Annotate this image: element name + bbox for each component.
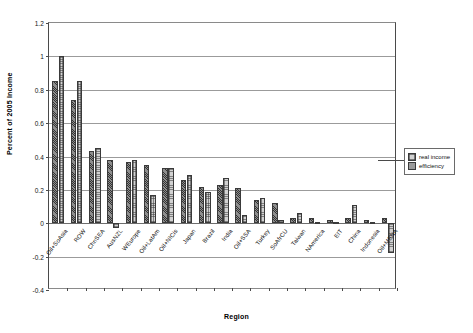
legend-item-efficiency: efficiency	[408, 162, 450, 170]
x-axis-tick-mark	[196, 288, 197, 291]
x-axis-category-label: ROW	[73, 228, 87, 243]
bar-real-income	[52, 81, 57, 223]
x-axis-category-label: NAmerica	[304, 228, 325, 253]
x-axis-tick-mark	[250, 288, 251, 291]
legend-leader-line	[378, 160, 404, 161]
x-axis-category-labels: Oil+SoAsiaROWChnSEAAusNZLWEuropeOil+LatA…	[48, 228, 396, 288]
x-axis-tick-mark	[342, 288, 343, 291]
x-axis-category-label: India	[221, 228, 234, 242]
x-axis-tick-mark	[141, 288, 142, 291]
x-axis-category-label: SoAfrCU	[269, 228, 289, 251]
bar-real-income	[162, 168, 167, 223]
legend-item-real-income: real income	[408, 153, 450, 161]
legend-label-real-income: real income	[419, 154, 450, 160]
x-axis-tick-mark	[287, 288, 288, 291]
x-axis-title: Region	[0, 313, 473, 320]
bar-efficiency	[315, 222, 320, 224]
x-axis-category-label: Oil+SoAsia	[45, 228, 69, 256]
bar-real-income	[107, 160, 112, 223]
bar-efficiency	[95, 148, 100, 223]
y-axis-tick-label: -0.4	[32, 287, 44, 294]
bar-efficiency	[260, 198, 265, 223]
bar-efficiency	[223, 178, 228, 223]
bar-efficiency	[333, 222, 338, 224]
x-axis-tick-mark	[397, 288, 398, 291]
x-axis-tick-mark	[269, 288, 270, 291]
bar-real-income	[217, 185, 222, 223]
x-axis-category-label: Brazil	[201, 228, 215, 244]
bar-efficiency	[242, 215, 247, 223]
bar-efficiency	[352, 205, 357, 223]
y-axis-tick-label: 0.2	[35, 186, 44, 193]
y-axis-tick-label: 1	[40, 53, 44, 60]
x-axis-tick-mark	[122, 288, 123, 291]
x-axis-tick-mark	[104, 288, 105, 291]
x-axis-tick-mark	[324, 288, 325, 291]
legend-label-efficiency: efficiency	[419, 163, 444, 169]
bar-efficiency	[77, 81, 82, 223]
x-axis-category-label: Oil+SSA	[233, 228, 252, 250]
y-axis-title: Percent of 2005 Income	[6, 72, 13, 155]
x-axis-tick-mark	[360, 288, 361, 291]
bar-real-income	[290, 218, 295, 223]
bar-real-income	[144, 165, 149, 223]
y-axis-tick-label: 0	[40, 220, 44, 227]
bar-real-income	[71, 100, 76, 223]
bar-efficiency	[150, 195, 155, 223]
x-axis-tick-mark	[379, 288, 380, 291]
bar-real-income	[199, 187, 204, 224]
x-axis-category-label: Japan	[182, 228, 197, 245]
bar-real-income	[272, 203, 277, 223]
bar-chart: Percent of 2005 Income 1.210.80.60.40.20…	[0, 0, 473, 333]
x-axis-tick-mark	[177, 288, 178, 291]
x-axis-tick-mark	[232, 288, 233, 291]
x-axis-tick-mark	[214, 288, 215, 291]
bar-real-income	[345, 218, 350, 223]
x-axis-category-label: ChnSEA	[86, 228, 105, 250]
x-axis-tick-mark	[86, 288, 87, 291]
bar-efficiency	[278, 220, 283, 223]
y-axis-tick-label: 1.2	[35, 20, 44, 27]
bar-efficiency	[187, 175, 192, 223]
bar-efficiency	[297, 213, 302, 223]
x-axis-tick-mark	[67, 288, 68, 291]
x-axis-category-label: Turkey	[254, 228, 270, 246]
x-axis-category-label: China	[347, 228, 362, 244]
chart-legend: real income efficiency	[404, 148, 455, 175]
y-axis-tick-label: 0.4	[35, 153, 44, 160]
legend-swatch-efficiency-icon	[408, 162, 416, 170]
bar-real-income	[364, 220, 369, 223]
bar-real-income	[382, 218, 387, 223]
bar-real-income	[126, 162, 131, 224]
bar-real-income	[235, 188, 240, 223]
x-axis-tick-mark	[305, 288, 306, 291]
x-axis-category-label: Oil+NICis	[158, 228, 179, 253]
bar-efficiency	[59, 56, 64, 223]
y-axis-tick-mark	[46, 290, 49, 291]
y-axis-tick-label: 0.6	[35, 120, 44, 127]
bar-real-income	[181, 180, 186, 223]
bar-real-income	[327, 220, 332, 223]
bar-real-income	[309, 218, 314, 223]
bar-efficiency	[205, 192, 210, 224]
x-axis-category-label: Taiwan	[290, 228, 307, 247]
x-axis-category-label: AusNZL	[105, 228, 123, 249]
bar-efficiency	[168, 168, 173, 223]
bar-real-income	[89, 151, 94, 223]
bar-efficiency	[370, 222, 375, 224]
bar-efficiency	[132, 160, 137, 223]
bar-real-income	[254, 200, 259, 223]
y-axis-tick-label: -0.2	[32, 253, 44, 260]
x-axis-tick-mark	[159, 288, 160, 291]
x-axis-category-label: EIT	[333, 228, 344, 239]
y-axis-tick-label: 0.8	[35, 86, 44, 93]
legend-swatch-real-income-icon	[408, 153, 416, 161]
